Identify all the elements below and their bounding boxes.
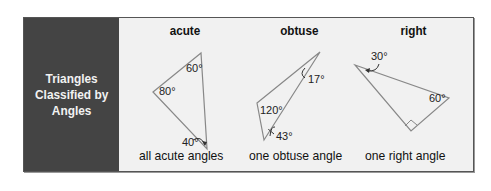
right-triangle: 30° 60° — [355, 50, 449, 131]
title-line-1: Triangles — [35, 71, 108, 87]
svg-text:80°: 80° — [159, 85, 176, 97]
side-title-panel: Triangles Classified by Angles — [24, 18, 119, 171]
obtuse-triangle: 120° 17° 43° — [257, 52, 325, 142]
svg-text:40°: 40° — [182, 136, 199, 148]
acute-caption: all acute angles — [139, 148, 223, 163]
svg-text:17°: 17° — [308, 73, 325, 85]
svg-text:120°: 120° — [260, 104, 283, 116]
acute-triangle: 80° 60° 40° — [153, 53, 207, 149]
svg-text:30°: 30° — [371, 50, 388, 62]
title-line-3: Angles — [35, 103, 108, 119]
classification-panel: Triangles Classified by Angles acute obt… — [23, 17, 474, 172]
svg-text:60°: 60° — [429, 92, 446, 104]
title-line-2: Classified by — [35, 87, 108, 103]
svg-text:60°: 60° — [186, 62, 203, 74]
triangles-area: acute obtuse right 80° 60° 40° 120° 17° … — [119, 18, 473, 171]
svg-text:43°: 43° — [276, 130, 293, 142]
panel-title: Triangles Classified by Angles — [35, 71, 108, 119]
right-caption: one right angle — [365, 148, 445, 163]
obtuse-caption: one obtuse angle — [249, 148, 342, 163]
